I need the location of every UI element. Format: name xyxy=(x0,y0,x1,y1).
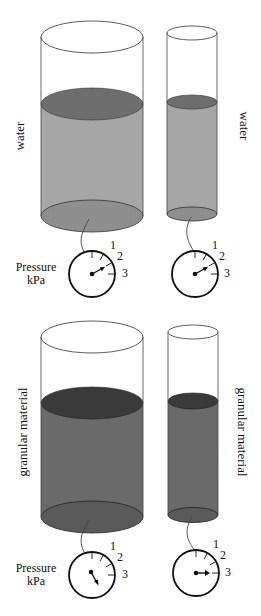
pressure-label: Pressure xyxy=(16,561,57,575)
svg-text:2: 2 xyxy=(219,249,225,263)
label-granular-left: granular material xyxy=(15,387,30,477)
pressure-unit: kPa xyxy=(27,273,46,287)
narrow-cylinder-granular xyxy=(168,325,218,523)
svg-text:1: 1 xyxy=(110,539,116,553)
pressure-label: Pressure xyxy=(16,260,57,274)
pressure-gauge-narrow-water: 1 2 3 xyxy=(172,238,230,297)
tick-1: 1 xyxy=(110,238,116,252)
narrow-cylinder-water xyxy=(167,26,217,221)
label-water-left: water xyxy=(12,121,27,151)
svg-text:2: 2 xyxy=(220,548,226,562)
svg-text:3: 3 xyxy=(122,567,128,581)
svg-text:1: 1 xyxy=(213,537,219,551)
svg-text:3: 3 xyxy=(224,266,230,280)
pressure-gauge-wide-granular: 1 2 3 xyxy=(69,539,128,598)
water-panel: 1 2 3 1 2 3 water water Pressure kPa xyxy=(12,21,252,297)
svg-text:1: 1 xyxy=(212,238,218,252)
wide-cylinder-water xyxy=(41,21,143,232)
tick-3: 3 xyxy=(122,266,128,280)
pressure-gauge-narrow-granular: 1 2 3 xyxy=(173,537,231,596)
tube xyxy=(187,217,194,252)
diagram: 1 2 3 1 2 3 water water Pressure kPa xyxy=(0,0,261,616)
pressure-gauge-wide-water: 1 2 3 xyxy=(69,238,128,297)
tick-2: 2 xyxy=(117,249,123,263)
label-granular-right: granular material xyxy=(235,387,250,477)
svg-text:2: 2 xyxy=(117,550,123,564)
wide-cylinder-granular xyxy=(41,321,143,533)
svg-text:3: 3 xyxy=(225,565,231,579)
pressure-unit: kPa xyxy=(27,574,46,588)
label-water-right: water xyxy=(237,112,252,142)
granular-panel: 1 2 3 1 2 3 granular material granular m… xyxy=(15,321,250,598)
